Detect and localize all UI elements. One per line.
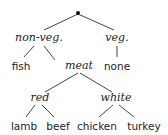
node-white: white	[101, 92, 132, 104]
node-veg: veg.	[105, 32, 128, 44]
edge-meat-red	[45, 73, 78, 92]
node-beef: beef	[46, 120, 69, 132]
edge-nonveg-meat	[44, 46, 55, 60]
node-turkey: turkey	[127, 120, 160, 132]
node-red: red	[31, 92, 50, 104]
edge-red-lamb	[26, 105, 35, 117]
node-none: none	[104, 60, 130, 72]
node-non-veg: non-veg.	[15, 32, 63, 44]
edge-red-beef	[42, 105, 54, 117]
edge-nonveg-fish	[24, 46, 34, 57]
root-dot-icon	[76, 11, 80, 15]
edge-root-veg	[78, 14, 114, 30]
edge-white-chicken	[99, 105, 113, 117]
node-chicken: chicken	[77, 120, 117, 132]
edge-root-nonveg	[44, 14, 78, 30]
node-meat: meat	[65, 60, 93, 72]
node-fish: fish	[12, 60, 31, 72]
edge-white-turkey	[119, 105, 134, 117]
node-lamb: lamb	[11, 120, 37, 132]
edge-meat-white	[80, 73, 112, 92]
